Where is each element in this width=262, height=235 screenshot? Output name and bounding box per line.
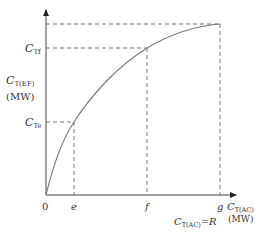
x-axis-unit: (MW): [228, 214, 254, 224]
equation-annotation: CT(AC)=R: [174, 216, 217, 229]
y-tick-cte: CTe: [25, 116, 42, 130]
x-tick-g: g: [217, 201, 223, 212]
y-axis-label: CT(EF): [6, 74, 35, 88]
x-tick-origin: 0: [42, 201, 48, 212]
chart: CTf CTe CT(EF) (MW) 0 e f g CT(AC) (MW) …: [0, 0, 262, 235]
y-tick-ctf: CTf: [25, 42, 42, 56]
x-tick-f: f: [144, 201, 151, 212]
x-tick-e: e: [71, 201, 77, 212]
guide-lines: [46, 24, 220, 195]
y-axis-unit: (MW): [6, 91, 34, 102]
curve-line: [46, 24, 220, 195]
x-axis-label: CT(AC): [227, 201, 254, 214]
